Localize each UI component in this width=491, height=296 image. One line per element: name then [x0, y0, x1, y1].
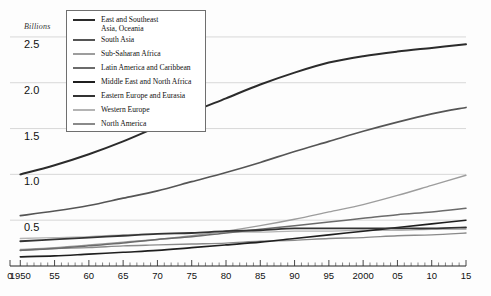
legend-item[interactable]: Latin America and Caribbean [71, 63, 201, 77]
legend-item-label: North America [101, 119, 146, 129]
chart-legend: East and Southeast Asia, OceaniaSouth As… [66, 10, 206, 132]
legend-item[interactable]: South Asia [71, 35, 201, 49]
legend-color-swatch [73, 39, 95, 41]
legend-item-label: Latin America and Caribbean [101, 63, 191, 73]
legend-color-swatch [73, 95, 95, 97]
legend-item-label: East and Southeast Asia, Oceania [101, 15, 158, 33]
y-axis-tick-label: 2.0 [24, 84, 39, 96]
legend-color-swatch [73, 53, 95, 55]
legend-color-swatch [73, 123, 95, 125]
legend-color-swatch [73, 109, 95, 111]
legend-color-swatch [73, 67, 95, 69]
legend-item-label: Sub-Saharan Africa [101, 49, 161, 59]
legend-item[interactable]: North America [71, 119, 201, 133]
series-line [20, 233, 466, 250]
y-axis-tick-label: 2.5 [24, 38, 39, 50]
y-axis-tick-label: 1.0 [24, 175, 39, 187]
chart-figure: Billions0.51.01.52.02.501950556065707580… [0, 0, 491, 296]
y-axis-unit-label: Billions [24, 22, 51, 31]
y-axis-tick-label: 0.5 [24, 221, 39, 233]
y-axis-tick-label: 1.5 [24, 130, 39, 142]
legend-item[interactable]: Western Europe [71, 105, 201, 119]
legend-item[interactable]: Sub-Saharan Africa [71, 49, 201, 63]
legend-item[interactable]: Middle East and North Africa [71, 77, 201, 91]
legend-item-label: Eastern Europe and Eurasia [101, 91, 185, 101]
legend-item[interactable]: East and Southeast Asia, Oceania [71, 15, 201, 35]
legend-item-label: Middle East and North Africa [101, 77, 191, 87]
series-line [20, 228, 466, 242]
legend-color-swatch [73, 19, 95, 21]
legend-item[interactable]: Eastern Europe and Eurasia [71, 91, 201, 105]
legend-item-label: South Asia [101, 35, 134, 45]
legend-color-swatch [73, 81, 95, 83]
x-axis-tick-label: 15 [446, 270, 486, 281]
legend-item-label: Western Europe [101, 105, 150, 115]
